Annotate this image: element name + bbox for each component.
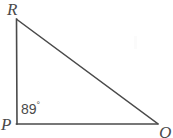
side-rp bbox=[17, 19, 18, 124]
vertex-label-q: Q bbox=[159, 124, 171, 138]
vertex-label-p: P bbox=[1, 116, 11, 133]
geometry-figure: R P Q 89° bbox=[0, 0, 173, 138]
angle-measure-p: 89° bbox=[21, 101, 40, 116]
degree-symbol-icon: ° bbox=[37, 100, 41, 110]
angle-measure-value: 89 bbox=[21, 101, 37, 117]
triangle-drawing bbox=[0, 0, 173, 138]
vertex-label-r: R bbox=[7, 1, 17, 18]
